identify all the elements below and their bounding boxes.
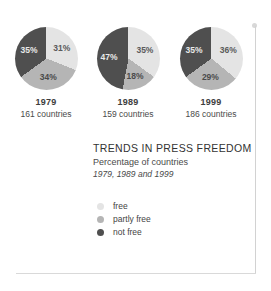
pie-country-count: 186 countries xyxy=(170,109,252,119)
pie-year-label: 1989 xyxy=(87,97,169,107)
infographic-panel: 31% 34% 35% 1979 161 countries 35% 18% 4… xyxy=(0,0,271,291)
pie-slice-label-not-free: 35% xyxy=(21,46,38,55)
chart-subtitle: Percentage of countries xyxy=(93,157,258,168)
legend-label: partly free xyxy=(113,215,151,224)
frame-bottom-rule xyxy=(16,273,256,274)
pie-country-count: 159 countries xyxy=(87,109,169,119)
pie-chart-row: 31% 34% 35% 1979 161 countries 35% 18% 4… xyxy=(0,27,271,122)
pie-slice-label-free: 35% xyxy=(136,46,153,55)
pie-slice-label-not-free: 47% xyxy=(101,52,118,61)
legend-item-free: free xyxy=(97,200,151,213)
legend-swatch-not-free-icon xyxy=(97,229,104,236)
pie-slice-label-partly-free: 34% xyxy=(40,73,57,82)
pie-country-count: 161 countries xyxy=(5,109,87,119)
legend-label: free xyxy=(113,202,128,211)
pie-slice-label-free: 36% xyxy=(220,46,237,55)
pie-wrap-1999: 36% 29% 35% xyxy=(180,27,243,90)
pie-group-1989: 35% 18% 47% 1989 159 countries xyxy=(87,27,169,119)
pie-slice-label-free: 31% xyxy=(53,44,70,53)
pie-slice-label-not-free: 35% xyxy=(186,46,203,55)
chart-title: TRENDS IN PRESS FREEDOM xyxy=(93,142,258,154)
pie-wrap-1989: 35% 18% 47% xyxy=(97,27,160,90)
pie-slice-label-partly-free: 29% xyxy=(202,73,219,82)
pie-year-label: 1999 xyxy=(170,97,252,107)
caption-block: TRENDS IN PRESS FREEDOM Percentage of co… xyxy=(93,142,258,180)
chart-years-note: 1979, 1989 and 1999 xyxy=(93,169,258,180)
pie-year-label: 1979 xyxy=(5,97,87,107)
legend-label: not free xyxy=(113,228,142,237)
pie-wrap-1979: 31% 34% 35% xyxy=(15,27,78,90)
pie-group-1999: 36% 29% 35% 1999 186 countries xyxy=(170,27,252,119)
legend-swatch-free-icon xyxy=(97,203,104,210)
chart-legend: free partly free not free xyxy=(97,200,151,239)
legend-swatch-partly-free-icon xyxy=(97,216,104,223)
legend-item-not-free: not free xyxy=(97,226,151,239)
pie-slice-label-partly-free: 18% xyxy=(126,72,143,81)
pie-group-1979: 31% 34% 35% 1979 161 countries xyxy=(5,27,87,119)
legend-item-partly-free: partly free xyxy=(97,213,151,226)
